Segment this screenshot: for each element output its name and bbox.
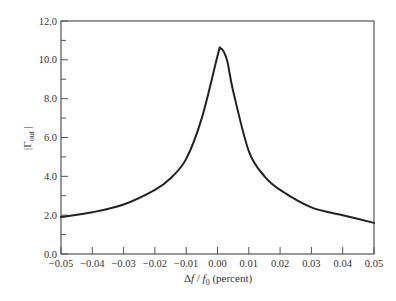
x-tick-label: 0.01	[240, 258, 258, 269]
x-axis-label: Δf / f0 (percent)	[184, 272, 253, 287]
y-tick-label: 6.0	[44, 132, 57, 143]
y-axis-ticks: 0.02.04.06.08.010.012.0	[39, 16, 68, 260]
y-tick-label: 12.0	[39, 16, 57, 27]
gamma-out-curve	[61, 47, 374, 223]
x-tick-label: −0.01	[174, 258, 198, 269]
x-tick-label: −0.02	[143, 258, 167, 269]
y-tick-label: 2.0	[44, 210, 57, 221]
x-tick-label: 0.05	[365, 258, 383, 269]
x-tick-label: 0.02	[271, 258, 289, 269]
line-chart: 0.02.04.06.08.010.012.0 −0.05−0.04−0.03−…	[0, 0, 396, 301]
y-axis-label: |Γout |	[21, 126, 36, 150]
y-tick-label: 10.0	[39, 54, 57, 65]
y-tick-label: 4.0	[44, 171, 57, 182]
x-axis-ticks: −0.05−0.04−0.03−0.02−0.010.000.010.020.0…	[49, 247, 383, 269]
x-tick-label: −0.03	[111, 258, 135, 269]
x-tick-label: 0.00	[208, 258, 226, 269]
x-tick-label: −0.04	[80, 258, 105, 269]
x-tick-label: 0.04	[334, 258, 353, 269]
x-tick-label: 0.03	[302, 258, 320, 269]
x-tick-label: −0.05	[49, 258, 73, 269]
y-tick-label: 8.0	[44, 93, 57, 104]
